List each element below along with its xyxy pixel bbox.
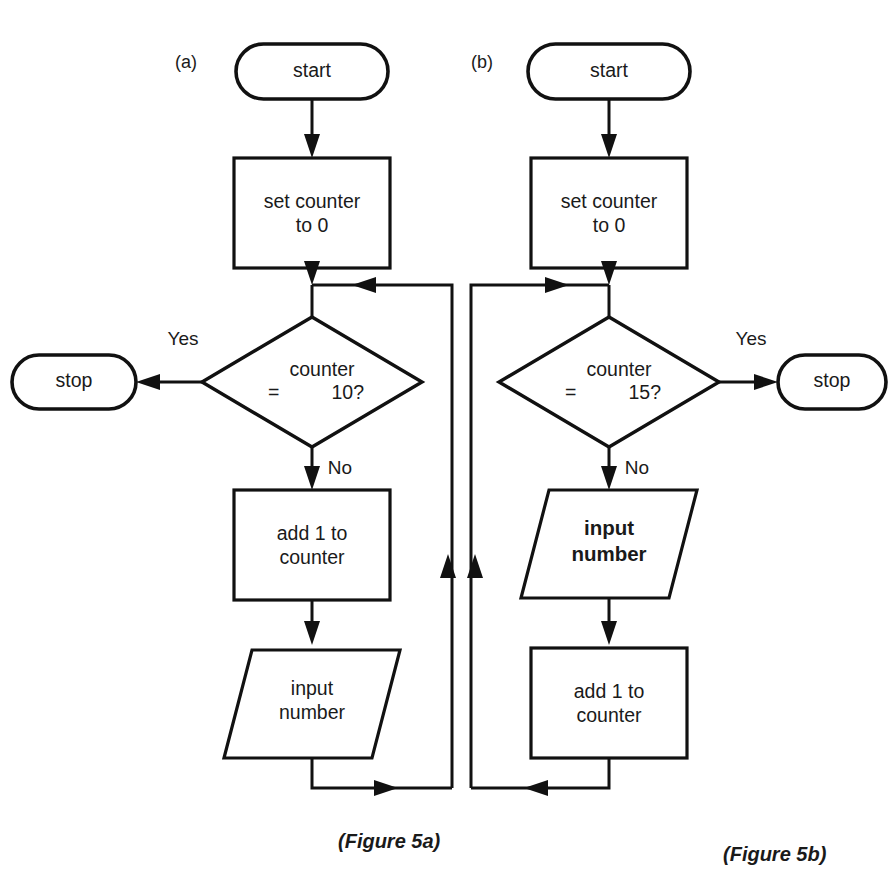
panel-a-start-label: start	[293, 59, 332, 81]
panel-b-arrowhead-start-to-set	[601, 134, 617, 158]
panel-b-set-counter-line2: to 0	[593, 214, 626, 236]
panel-b-decision-value: 15?	[628, 381, 661, 403]
panel-a-stop-label: stop	[56, 369, 93, 391]
panel-b-decision-diamond	[499, 317, 719, 447]
panel-b: (b) start set counter to 0 counter = 15?…	[467, 44, 886, 796]
panel-b-arrowhead-set-to-junction	[601, 261, 617, 285]
panel-a: (a) start set counter to 0 counter = 10?…	[12, 44, 456, 796]
panel-a-tag: (a)	[175, 52, 197, 72]
panel-a-arrowhead-loop-return	[352, 277, 376, 293]
panel-a-add-line1: add 1 to	[277, 522, 348, 544]
panel-a-arrowhead-loop-riser	[440, 554, 456, 578]
panel-b-set-counter-box	[531, 158, 687, 268]
panel-a-arrowhead-no	[304, 466, 320, 490]
panel-b-input-line2: number	[571, 542, 646, 565]
panel-b-arrowhead-no	[601, 466, 617, 490]
panel-b-add-line2: counter	[576, 704, 642, 726]
panel-a-no-label: No	[328, 457, 352, 478]
panel-a-add-line2: counter	[279, 546, 345, 568]
panel-a-input-line2: number	[279, 701, 346, 723]
panel-b-decision-line1: counter	[586, 358, 652, 380]
panel-b-set-counter-line1: set counter	[561, 190, 658, 212]
panel-b-yes-label: Yes	[736, 328, 767, 349]
panel-b-arrowhead-input-to-add	[601, 621, 617, 645]
panel-b-arrowhead-yes	[754, 374, 778, 390]
figure-a-caption: (Figure 5a)	[338, 830, 440, 853]
panel-a-arrowhead-set-to-junction	[304, 261, 320, 285]
flowchart-figure: (a) start set counter to 0 counter = 10?…	[0, 0, 896, 895]
panel-a-decision-line1: counter	[289, 358, 355, 380]
panel-b-start-label: start	[590, 59, 629, 81]
panel-a-yes-label: Yes	[168, 328, 199, 349]
panel-a-decision-diamond	[202, 317, 422, 447]
figure-b-caption: (Figure 5b)	[723, 843, 826, 866]
panel-a-decision-value: 10?	[331, 381, 364, 403]
panel-a-set-counter-line2: to 0	[296, 214, 329, 236]
panel-a-decision-equals: =	[268, 381, 279, 403]
flowchart-canvas: (a) start set counter to 0 counter = 10?…	[0, 0, 896, 895]
panel-a-set-counter-box	[234, 158, 390, 268]
panel-b-arrowhead-loop-bottom	[524, 780, 548, 796]
panel-b-add-line1: add 1 to	[574, 680, 645, 702]
panel-a-arrowhead-start-to-set	[304, 134, 320, 158]
panel-b-input-line1: input	[584, 516, 634, 539]
panel-b-arrowhead-loop-riser	[467, 554, 483, 578]
panel-b-tag: (b)	[471, 52, 493, 72]
panel-a-arrowhead-loop-bottom	[374, 780, 398, 796]
panel-a-set-counter-line1: set counter	[264, 190, 361, 212]
panel-b-stop-label: stop	[814, 369, 851, 391]
panel-a-input-line1: input	[291, 677, 334, 699]
panel-b-no-label: No	[625, 457, 649, 478]
panel-b-decision-equals: =	[565, 381, 576, 403]
panel-b-arrowhead-loop-return	[545, 277, 569, 293]
panel-b-add-counter-box	[531, 648, 687, 758]
panel-a-add-counter-box	[234, 490, 390, 600]
panel-a-arrowhead-yes	[136, 374, 160, 390]
panel-a-arrowhead-add-to-input	[304, 621, 320, 645]
